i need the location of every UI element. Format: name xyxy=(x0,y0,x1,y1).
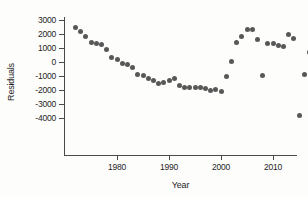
data-point xyxy=(193,85,198,90)
data-point xyxy=(250,27,255,32)
data-point xyxy=(255,37,260,42)
y-axis-title: Residuals xyxy=(6,52,16,112)
data-point xyxy=(109,55,114,60)
data-point xyxy=(78,29,83,34)
y-tick xyxy=(59,104,65,105)
data-point xyxy=(94,41,99,46)
data-point xyxy=(229,59,234,64)
x-tick xyxy=(273,155,274,160)
x-tick-label: 2000 xyxy=(204,163,238,172)
y-axis-line xyxy=(64,17,65,155)
data-point xyxy=(146,76,151,81)
x-tick xyxy=(117,155,118,160)
data-point xyxy=(224,74,229,79)
data-point xyxy=(239,34,244,39)
y-tick-label: -1000 xyxy=(16,72,56,81)
data-point xyxy=(307,50,308,55)
data-point xyxy=(83,34,88,39)
data-point xyxy=(187,85,192,90)
data-point xyxy=(161,80,166,85)
data-point xyxy=(167,78,172,83)
x-tick-label: 1990 xyxy=(152,163,186,172)
y-tick-label: 2000 xyxy=(16,30,56,39)
x-tick xyxy=(221,155,222,160)
data-point xyxy=(234,40,239,45)
data-point xyxy=(276,43,281,48)
y-tick-label: 1000 xyxy=(16,44,56,53)
y-tick-label: 3000 xyxy=(16,16,56,25)
data-point xyxy=(99,42,104,47)
y-tick xyxy=(59,34,65,35)
y-tick xyxy=(59,62,65,63)
data-point xyxy=(120,61,125,66)
y-tick xyxy=(59,118,65,119)
data-point xyxy=(302,72,307,77)
x-axis-line xyxy=(64,155,297,156)
data-point xyxy=(130,65,135,70)
data-point xyxy=(89,40,94,45)
y-tick-label: -4000 xyxy=(16,114,56,123)
x-tick-label: 2010 xyxy=(256,163,290,172)
data-point xyxy=(281,44,286,49)
data-point xyxy=(286,32,291,37)
y-tick xyxy=(59,76,65,77)
data-point xyxy=(115,57,120,62)
y-tick-label: 0 xyxy=(16,58,56,67)
data-point xyxy=(198,85,203,90)
y-tick-label: -2000 xyxy=(16,86,56,95)
data-point xyxy=(104,47,109,52)
data-point xyxy=(245,27,250,32)
data-point xyxy=(260,73,265,78)
x-axis-title: Year xyxy=(64,180,297,190)
data-point xyxy=(172,76,177,81)
x-tick xyxy=(169,155,170,160)
y-tick-label: -3000 xyxy=(16,100,56,109)
data-point xyxy=(291,36,296,41)
data-point xyxy=(141,73,146,78)
x-tick-label: 1980 xyxy=(100,163,134,172)
data-point xyxy=(271,41,276,46)
data-point xyxy=(297,113,302,118)
data-point xyxy=(73,25,78,30)
data-point xyxy=(213,87,218,92)
data-point xyxy=(135,72,140,77)
plot-area: 3000200010000-1000-2000-3000-4000 198019… xyxy=(0,0,308,197)
y-tick xyxy=(59,90,65,91)
scatter-plot-figure: 3000200010000-1000-2000-3000-4000 198019… xyxy=(0,0,308,197)
y-tick xyxy=(59,48,65,49)
data-point xyxy=(265,41,270,46)
data-point xyxy=(219,89,224,94)
y-tick xyxy=(59,20,65,21)
